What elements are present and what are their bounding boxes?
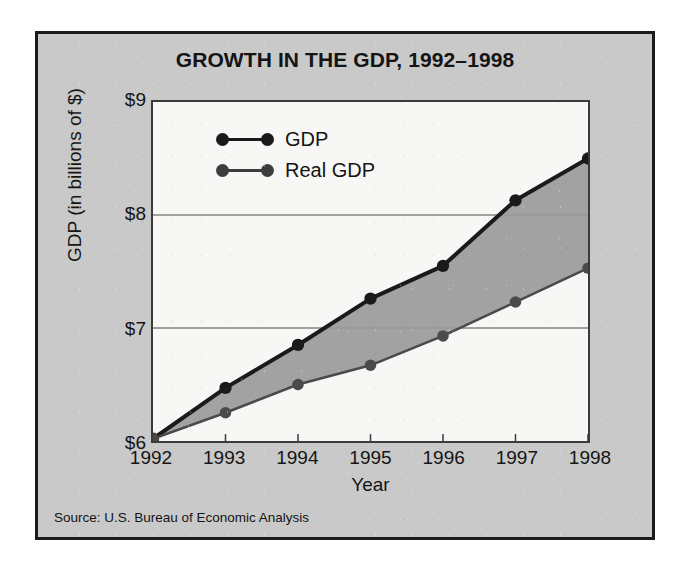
figure-panel: GROWTH IN THE GDP, 1992–1998 GDP (in bil… bbox=[35, 31, 655, 540]
data-point-marker bbox=[365, 360, 376, 371]
x-tick-label: 1997 bbox=[482, 447, 552, 469]
y-axis-title: GDP (in billions of $) bbox=[64, 35, 86, 315]
legend-item-label: GDP bbox=[285, 128, 328, 151]
y-tick-label: $7 bbox=[100, 318, 146, 340]
legend-item: Real GDP bbox=[216, 155, 375, 186]
x-tick-label: 1996 bbox=[409, 447, 479, 469]
y-axis-tick-labels: $6$7$8$9 bbox=[94, 100, 146, 443]
source-note: Source: U.S. Bureau of Economic Analysis bbox=[54, 510, 309, 525]
data-point-marker bbox=[364, 292, 376, 304]
y-tick-label: $9 bbox=[100, 89, 146, 111]
data-point-marker bbox=[220, 407, 231, 418]
x-axis-title: Year bbox=[151, 474, 590, 496]
data-point-marker bbox=[292, 379, 303, 390]
data-point-marker bbox=[437, 330, 448, 341]
data-point-marker bbox=[509, 194, 521, 206]
x-tick-label: 1993 bbox=[189, 447, 259, 469]
data-point-marker bbox=[510, 296, 521, 307]
data-point-marker bbox=[437, 260, 449, 272]
data-point-marker bbox=[292, 339, 304, 351]
chart-title: GROWTH IN THE GDP, 1992–1998 bbox=[38, 48, 652, 72]
legend-swatch-icon bbox=[216, 164, 274, 178]
x-tick-label: 1998 bbox=[555, 447, 625, 469]
x-tick-label: 1994 bbox=[262, 447, 332, 469]
data-point-marker bbox=[219, 382, 231, 394]
x-tick-label: 1992 bbox=[116, 447, 186, 469]
chart-legend: GDPReal GDP bbox=[216, 124, 375, 186]
plot-area: GDPReal GDP bbox=[151, 100, 590, 443]
legend-swatch-icon bbox=[216, 133, 274, 147]
legend-item-label: Real GDP bbox=[285, 159, 375, 182]
y-tick-label: $8 bbox=[100, 203, 146, 225]
x-tick-label: 1995 bbox=[336, 447, 406, 469]
legend-item: GDP bbox=[216, 124, 375, 155]
x-axis-tick-labels: 1992199319941995199619971998 bbox=[151, 447, 590, 473]
